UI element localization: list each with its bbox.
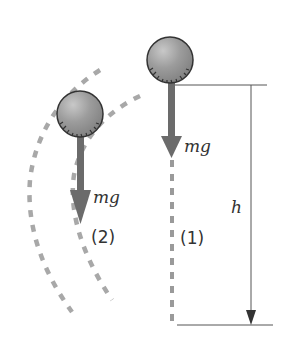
height-label: h [231,197,242,217]
ball-2 [57,91,103,137]
free-fall-diagram: h mg (1) mg (2) [0,0,283,353]
path-label-2: (2) [91,227,115,247]
force-label-1: mg [184,136,211,156]
force-arrow-1-head-icon [161,136,182,158]
path-label-1: (1) [180,228,204,248]
force-arrow-2-shaft [77,132,84,192]
force-arrow-1-shaft [168,80,175,138]
ball-1 [147,37,193,83]
height-arrow-head-icon [246,310,256,325]
force-label-2: mg [93,187,120,207]
